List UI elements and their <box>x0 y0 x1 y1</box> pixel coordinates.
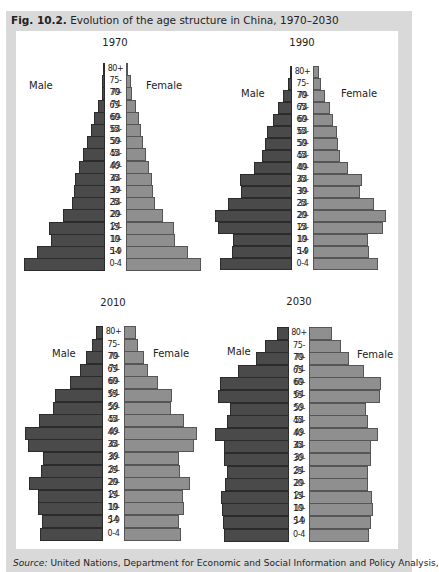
age-group-label: 30-34 <box>289 453 309 465</box>
male-bar <box>265 138 292 150</box>
male-bar <box>262 150 292 162</box>
age-group-label: 15-19 <box>292 222 313 234</box>
male-bar <box>83 148 105 161</box>
figure-label: Fig. 10.2. <box>11 14 67 26</box>
male-bar <box>228 198 292 210</box>
female-bar <box>124 414 184 427</box>
female-bar <box>313 258 378 270</box>
male-bar <box>273 114 292 126</box>
age-group-label: 45-49 <box>289 415 309 427</box>
age-group-label: 45-49 <box>103 414 124 426</box>
female-bar <box>124 439 194 452</box>
age-group-label: 20-24 <box>105 209 126 221</box>
age-group-label: 5-9 <box>105 246 126 258</box>
age-group-label: 25-29 <box>103 465 124 477</box>
female-bar <box>313 222 383 234</box>
age-group-label: 70-74 <box>292 90 313 102</box>
male-bar <box>218 222 292 234</box>
male-bar <box>40 528 103 541</box>
age-group-label: 65-69 <box>103 364 124 376</box>
male-bar <box>232 246 292 258</box>
female-bar <box>313 114 333 126</box>
age-group-label: 25-29 <box>105 197 126 209</box>
male-bar <box>278 102 292 114</box>
female-bar <box>313 162 348 174</box>
male-bar <box>29 477 103 490</box>
male-bar <box>283 90 292 102</box>
age-group-label: 5-9 <box>103 515 124 527</box>
source-text: United Nations, Department for Economic … <box>50 558 438 568</box>
male-bar <box>42 515 103 528</box>
age-group-label: 35-39 <box>292 174 313 186</box>
male-bar <box>233 234 292 246</box>
female-bar <box>313 198 374 210</box>
male-label: Male <box>227 346 251 357</box>
female-bar <box>124 389 172 402</box>
female-bar <box>124 351 144 364</box>
age-group-label: 65-69 <box>105 100 126 112</box>
source-note: Source: United Nations, Department for E… <box>13 556 413 570</box>
age-group-label: 20-24 <box>292 210 313 222</box>
female-bar <box>313 126 337 138</box>
male-bar <box>254 162 292 174</box>
age-group-label: 0-4 <box>103 528 124 540</box>
female-label: Female <box>146 80 182 91</box>
age-group-label: 75-79 <box>289 340 309 352</box>
male-bar <box>277 327 289 340</box>
figure-title: Fig. 10.2. Evolution of the age structur… <box>11 12 339 29</box>
age-group-label: 70-74 <box>105 87 126 99</box>
age-group-label: 50-54 <box>105 136 126 148</box>
male-bar <box>55 389 103 402</box>
female-bar <box>309 440 371 453</box>
age-group-label: 20-24 <box>289 478 309 490</box>
male-bar <box>223 516 289 529</box>
male-bar <box>38 502 103 515</box>
female-bar <box>309 415 368 428</box>
age-group-label: 10-14 <box>103 502 124 514</box>
female-label: Female <box>341 88 377 99</box>
age-group-label: 70-74 <box>103 351 124 363</box>
age-group-label: 80+ <box>289 327 309 339</box>
female-bar <box>313 246 369 258</box>
age-group-label: 15-19 <box>105 222 126 234</box>
age-group-label: 55-59 <box>105 124 126 136</box>
male-bar <box>43 452 103 465</box>
age-group-label: 80+ <box>292 66 313 78</box>
age-group-label: 80+ <box>103 326 124 338</box>
male-bar <box>227 415 289 428</box>
age-group-label: 40-44 <box>289 428 309 440</box>
age-group-label: 25-29 <box>289 466 309 478</box>
female-bar <box>126 258 201 271</box>
female-bar <box>313 210 386 222</box>
age-group-label: 35-39 <box>103 439 124 451</box>
age-group-label: 60-64 <box>105 112 126 124</box>
female-bar <box>124 515 179 528</box>
female-bar <box>313 174 362 186</box>
male-bar <box>96 326 103 339</box>
age-group-label: 60-64 <box>103 376 124 388</box>
age-group-label: 0-4 <box>289 529 309 541</box>
female-bar <box>309 377 381 390</box>
female-bar <box>309 503 373 516</box>
figure-title-text: Evolution of the age structure in China,… <box>70 14 338 26</box>
age-group-label: 0-4 <box>105 258 126 270</box>
female-bar <box>313 186 360 198</box>
age-group-label: 65-69 <box>292 102 313 114</box>
male-bar <box>215 210 292 222</box>
age-group-label: 0-4 <box>292 258 313 270</box>
male-bar <box>224 529 289 542</box>
age-group-label: 75-79 <box>292 78 313 90</box>
pyramid-year-label: 1970 <box>85 37 145 48</box>
male-bar <box>218 390 289 403</box>
female-bar <box>124 326 136 339</box>
male-bar <box>24 258 105 271</box>
pyramid-year-label: 2030 <box>269 296 329 307</box>
male-bar <box>220 377 289 390</box>
male-bar <box>224 453 289 466</box>
age-group-label: 30-34 <box>103 452 124 464</box>
male-label: Male <box>29 80 53 91</box>
male-bar <box>240 174 292 186</box>
age-group-label: 40-44 <box>292 162 313 174</box>
male-bar <box>220 258 292 270</box>
female-bar <box>313 138 338 150</box>
